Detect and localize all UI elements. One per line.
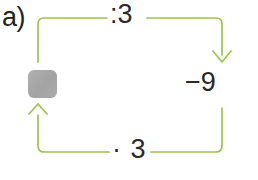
arrowhead-up-icon xyxy=(29,104,47,114)
exercise-diagram-a: a) :3 −9 · 3 xyxy=(0,0,258,180)
operation-bottom-label: · 3 xyxy=(112,136,147,163)
path-segment-topleft xyxy=(38,18,107,62)
path-segment-bottomright xyxy=(151,108,222,152)
operation-top-label: :3 xyxy=(110,1,133,28)
path-segment-bottomleft xyxy=(38,115,109,152)
exercise-item-label: a) xyxy=(2,4,25,31)
blank-answer-box[interactable] xyxy=(28,70,57,98)
operation-right-label: −9 xyxy=(185,69,216,96)
path-segment-topright xyxy=(147,18,222,55)
